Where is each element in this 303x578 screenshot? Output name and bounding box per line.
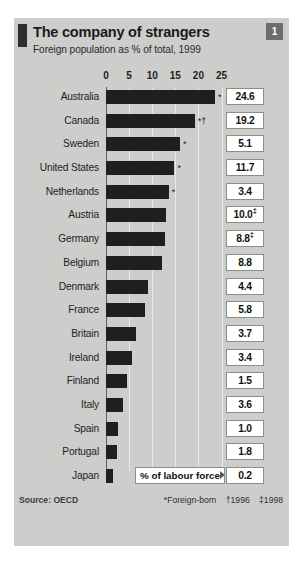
chart-row: Sweden*5.1 <box>14 134 289 158</box>
chart-plot-area: Australia*24.6Canada*†19.2Sweden*5.1Unit… <box>14 87 289 491</box>
bar-denmark <box>106 280 148 294</box>
bar-australia <box>106 90 215 104</box>
chart-row: Britain3.7 <box>14 324 289 348</box>
country-label-sweden: Sweden <box>14 138 99 149</box>
chart-row: Netherlands*3.4 <box>14 182 289 206</box>
value-box-united-states: 11.7 <box>226 159 264 176</box>
bar-austria <box>106 208 166 222</box>
bar-footnote-mark: * <box>177 161 181 175</box>
value-box-germany: 8.8‡ <box>226 230 264 247</box>
bar-spain <box>106 422 118 436</box>
country-label-ireland: Ireland <box>14 352 99 363</box>
footnote-1998: ‡1998 <box>259 495 283 505</box>
value-box-spain: 1.0 <box>226 420 264 437</box>
chart-row: Austria10.0‡ <box>14 205 289 229</box>
chart-row: Australia*24.6 <box>14 87 289 111</box>
value-box-belgium: 8.8 <box>226 254 264 271</box>
bar-footnote-mark: * <box>218 90 222 104</box>
chart-row: Finland1.5 <box>14 371 289 395</box>
x-tick-20: 20 <box>193 70 204 81</box>
bar-footnote-mark: *† <box>198 114 207 128</box>
chart-row: Italy3.6 <box>14 395 289 419</box>
x-tick-10: 10 <box>147 70 158 81</box>
bar-france <box>106 303 145 317</box>
bar-italy <box>106 398 123 412</box>
source-note: Source: OECD <box>19 495 78 505</box>
accent-bar-decoration <box>18 24 27 47</box>
value-box-japan: 0.2 <box>226 467 264 484</box>
chart-header: The company of strangers Foreign populat… <box>14 18 289 70</box>
chart-row: Canada*†19.2 <box>14 111 289 135</box>
chart-row: United States*11.7 <box>14 158 289 182</box>
country-label-canada: Canada <box>14 115 99 126</box>
bar-britain <box>106 327 136 341</box>
chart-subtitle: Foreign population as % of total, 1999 <box>33 44 201 55</box>
x-tick-0: 0 <box>103 70 109 81</box>
country-label-denmark: Denmark <box>14 281 99 292</box>
value-box-denmark: 4.4 <box>226 278 264 295</box>
bar-belgium <box>106 256 162 270</box>
country-label-portugal: Portugal <box>14 446 99 457</box>
x-axis-tick-labels: 0510152025 <box>14 70 289 87</box>
bar-finland <box>106 374 127 388</box>
bar-ireland <box>106 351 132 365</box>
value-box-canada: 19.2 <box>226 112 264 129</box>
footnote-foreign-born: *Foreign-born <box>164 495 217 505</box>
bar-footnote-mark: * <box>172 185 176 199</box>
value-box-sweden: 5.1 <box>226 135 264 152</box>
country-label-austria: Austria <box>14 209 99 220</box>
country-label-finland: Finland <box>14 375 99 386</box>
figure-number-badge: 1 <box>266 23 283 40</box>
chart-title: The company of strangers <box>33 24 210 40</box>
country-label-spain: Spain <box>14 423 99 434</box>
value-box-italy: 3.6 <box>226 396 264 413</box>
chart-row: Portugal1.8 <box>14 442 289 466</box>
bar-netherlands <box>106 185 169 199</box>
bar-footnote-mark: * <box>183 137 187 151</box>
chart-figure: The company of strangers Foreign populat… <box>14 18 289 546</box>
value-box-ireland: 3.4 <box>226 349 264 366</box>
country-label-belgium: Belgium <box>14 257 99 268</box>
bar-united-states <box>106 161 174 175</box>
country-label-united-states: United States <box>14 162 99 173</box>
value-box-finland: 1.5 <box>226 372 264 389</box>
labour-force-callout: % of labour force <box>135 467 225 484</box>
bar-sweden <box>106 137 180 151</box>
bar-portugal <box>106 445 117 459</box>
bar-japan <box>106 469 113 483</box>
value-box-britain: 3.7 <box>226 325 264 342</box>
value-box-australia: 24.6 <box>226 88 264 105</box>
x-tick-15: 15 <box>170 70 181 81</box>
chart-row: Belgium8.8 <box>14 253 289 277</box>
footnote-1996: †1996 <box>226 495 250 505</box>
footnotes: *Foreign-born †1996 ‡1998 <box>157 495 283 505</box>
chart-footer: Source: OECD *Foreign-born †1996 ‡1998 <box>14 491 289 513</box>
country-label-australia: Australia <box>14 91 99 102</box>
bar-germany <box>106 232 165 246</box>
chart-row: Germany8.8‡ <box>14 229 289 253</box>
chart-row: Ireland3.4 <box>14 348 289 372</box>
country-label-britain: Britain <box>14 328 99 339</box>
value-box-netherlands: 3.4 <box>226 183 264 200</box>
country-label-italy: Italy <box>14 399 99 410</box>
x-tick-5: 5 <box>126 70 132 81</box>
bar-canada <box>106 114 195 128</box>
country-label-netherlands: Netherlands <box>14 186 99 197</box>
chart-row: Spain1.0 <box>14 419 289 443</box>
chart-row: France5.8 <box>14 300 289 324</box>
chart-row: Japan0.2% of labour force <box>14 466 289 490</box>
chart-row: Denmark4.4 <box>14 277 289 301</box>
country-label-france: France <box>14 304 99 315</box>
country-label-japan: Japan <box>14 470 99 481</box>
value-box-portugal: 1.8 <box>226 443 264 460</box>
country-label-germany: Germany <box>14 233 99 244</box>
callout-arrow-icon <box>220 471 225 479</box>
x-tick-25: 25 <box>216 70 227 81</box>
value-box-france: 5.8 <box>226 301 264 318</box>
value-box-austria: 10.0‡ <box>226 206 264 223</box>
